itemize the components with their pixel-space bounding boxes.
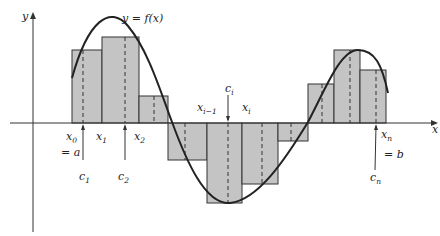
label-eq-b: = b <box>384 148 404 161</box>
curve-label: y = f(x) <box>121 12 163 25</box>
label-ci: ci <box>225 82 234 97</box>
x-axis-label: x <box>432 123 439 136</box>
label-c1: c1 <box>79 170 90 185</box>
riemann-sum-diagram: y x y = f(x) x0 = a x1 x2 c1 c2 ci xi−1 … <box>0 0 440 236</box>
label-xn: xn <box>381 128 392 143</box>
label-x1: x1 <box>96 130 107 145</box>
y-axis-label: y <box>21 10 29 23</box>
label-c2: c2 <box>118 170 129 185</box>
y-axis-arrow-icon <box>30 12 36 19</box>
label-x0: x0 <box>66 130 77 145</box>
label-xi: xi <box>242 101 251 116</box>
label-eq-a: = a <box>61 146 80 159</box>
label-x2: x2 <box>134 130 145 145</box>
label-cn: cn <box>370 171 381 186</box>
label-xi-minus-1: xi−1 <box>197 101 217 116</box>
